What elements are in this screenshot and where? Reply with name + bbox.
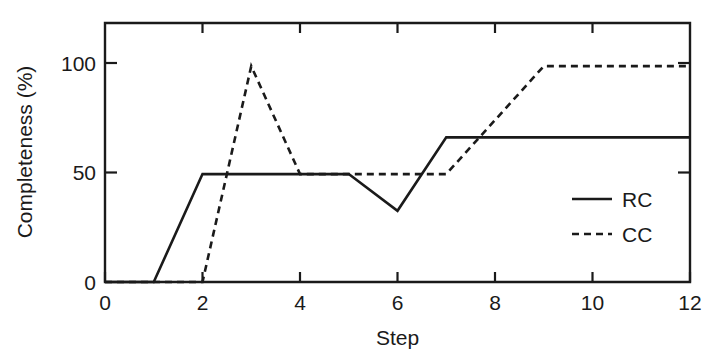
x-tick-label-2: 2 <box>197 291 209 314</box>
y-tick-label-100: 100 <box>61 52 96 75</box>
y-tick-label-0: 0 <box>84 271 96 294</box>
x-axis-title: Step <box>376 326 419 349</box>
y-axis-ticks-right <box>678 63 690 173</box>
x-axis-ticks-bottom <box>105 272 690 282</box>
chart-legend: RC CC <box>572 188 652 246</box>
x-tick-label-8: 8 <box>489 291 501 314</box>
x-tick-label-0: 0 <box>99 291 111 314</box>
chart-figure: 100 50 0 0 2 4 6 8 10 12 Step Completene… <box>0 0 725 353</box>
plot-frame <box>105 23 690 282</box>
y-tick-label-50: 50 <box>73 161 96 184</box>
legend-label-cc: CC <box>622 223 652 246</box>
y-axis-ticks-left <box>105 63 117 173</box>
x-tick-label-10: 10 <box>581 291 604 314</box>
series-line-cc <box>105 66 690 282</box>
legend-label-rc: RC <box>622 188 652 211</box>
line-chart: 100 50 0 0 2 4 6 8 10 12 Step Completene… <box>0 0 725 353</box>
x-tick-label-6: 6 <box>392 291 404 314</box>
x-tick-label-4: 4 <box>294 291 306 314</box>
x-axis-ticks-top <box>203 23 593 33</box>
x-tick-label-12: 12 <box>678 291 701 314</box>
y-axis-title: Completeness (%) <box>13 66 36 239</box>
series-line-rc <box>105 137 690 282</box>
